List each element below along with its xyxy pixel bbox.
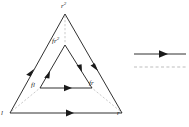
inner-triangle: [40, 45, 92, 88]
outer-left-label: l: [1, 110, 3, 117]
dashed-line-left: [12, 88, 40, 111]
diagram-canvas: [0, 0, 189, 127]
inner-apex-label-superscript: 2: [57, 36, 60, 41]
inner-right-label: fr: [89, 80, 94, 87]
inner-edge-arrowheads: [44, 64, 82, 91]
arrowhead-inner-left-edge: [44, 71, 50, 79]
outer-edge-apex-to-right: [65, 14, 122, 113]
outer-right-label: r: [117, 110, 120, 117]
outer-edge-left-to-apex: [10, 14, 65, 113]
inner-right-label-main: fr: [89, 79, 94, 87]
legend-item-directed-edge: [134, 50, 186, 58]
arrowhead-inner-bottom-edge: [64, 85, 72, 92]
outer-apex-label-superscript: 2: [64, 1, 67, 6]
outer-left-label-main: l: [1, 109, 3, 117]
outer-triangle: [10, 14, 122, 113]
figure-root: r2 l r fr2 fl fr: [0, 0, 189, 127]
outer-right-label-main: r: [117, 109, 120, 117]
inner-left-label: fl: [31, 82, 35, 89]
arrowhead-outer-bottom-edge: [66, 110, 74, 117]
inner-left-label-main: fl: [31, 81, 35, 89]
dashed-correspondence-lines: [12, 16, 120, 111]
outer-edge-arrowheads: [26, 63, 98, 116]
legend: [134, 50, 186, 67]
legend-arrowhead-icon: [159, 50, 168, 58]
outer-apex-label: r2: [61, 1, 66, 10]
inner-apex-label: fr2: [52, 36, 59, 45]
arrowhead-outer-right-edge: [91, 63, 99, 71]
dashed-line-right: [92, 88, 120, 111]
arrowhead-inner-right-edge: [77, 64, 82, 72]
